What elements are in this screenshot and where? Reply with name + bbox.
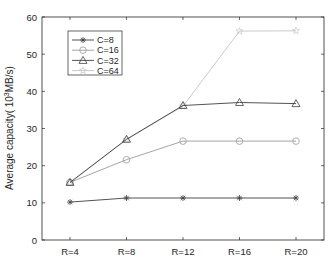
legend-label: C=64 [97,66,119,76]
asterisk-marker-icon [180,195,186,201]
y-tick-label: 0 [32,235,37,246]
x-tick-label: R=12 [172,246,195,257]
asterisk-marker-icon [80,37,86,43]
asterisk-marker-icon [124,195,130,201]
asterisk-marker-icon [237,195,243,201]
y-tick-label: 40 [26,86,37,97]
x-tick-label: R=4 [61,246,79,257]
y-tick-label: 30 [26,123,37,134]
x-tick-label: R=20 [285,246,308,257]
y-tick-label: 20 [26,160,37,171]
x-tick-label: R=16 [228,246,251,257]
line-chart: 0102030405060 R=4R=8R=12R=16R=20 Average… [0,0,336,269]
legend-label: C=32 [97,56,119,66]
y-tick-label: 60 [26,12,37,23]
legend: C=8C=16C=32C=64 [68,31,122,76]
y-axis-label: Average capacity( 103MB/s) [3,66,15,190]
x-tick-label: R=8 [118,246,136,257]
asterisk-marker-icon [293,195,299,201]
asterisk-marker-icon [67,199,73,205]
y-tick-label: 50 [26,49,37,60]
legend-label: C=8 [97,35,114,45]
legend-label: C=16 [97,45,119,55]
y-tick-label: 10 [26,197,37,208]
